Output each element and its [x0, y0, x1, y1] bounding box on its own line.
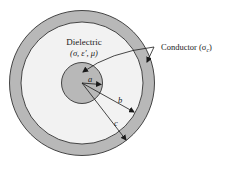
- radius-a-label: a: [88, 74, 92, 84]
- dielectric-title: Dielectric: [66, 37, 101, 47]
- radius-b-label: b: [118, 95, 122, 105]
- coax-diagram: Dielectric (σ, ε′, μ) Conductor (σc) a b…: [0, 0, 233, 169]
- radius-c-label: c: [114, 118, 118, 128]
- conductor-label: Conductor (σc): [161, 42, 212, 53]
- dielectric-params: (σ, ε′, μ): [70, 48, 98, 58]
